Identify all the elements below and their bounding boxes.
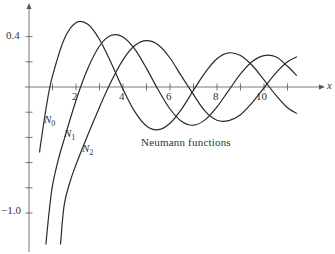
- x-tick-label-10: 10: [256, 90, 267, 102]
- series-label-n1-sub: 1: [71, 133, 75, 142]
- x-axis-arrow-icon: [319, 85, 325, 90]
- y-axis-arrow-icon: [27, 3, 32, 9]
- curves: [40, 21, 297, 244]
- x-tick-label-2: 2: [72, 90, 78, 102]
- series-label-n2-sub: 2: [89, 148, 93, 157]
- series-label-n1: N1: [64, 127, 75, 142]
- series-label-n2: N2: [82, 142, 93, 157]
- y-tick-label-minus-1.0: −1.0: [1, 204, 21, 216]
- chart-annotation: Neumann functions: [141, 136, 231, 148]
- x-tick-label-8: 8: [213, 90, 219, 102]
- series-label-n0-sub: 0: [51, 119, 55, 128]
- series-label-n0: N0: [44, 113, 55, 128]
- x-tick-label-4: 4: [119, 90, 125, 102]
- x-tick-label-6: 6: [166, 90, 172, 102]
- y-tick-label-0.4: 0.4: [6, 29, 20, 41]
- x-axis-label: x: [327, 79, 332, 91]
